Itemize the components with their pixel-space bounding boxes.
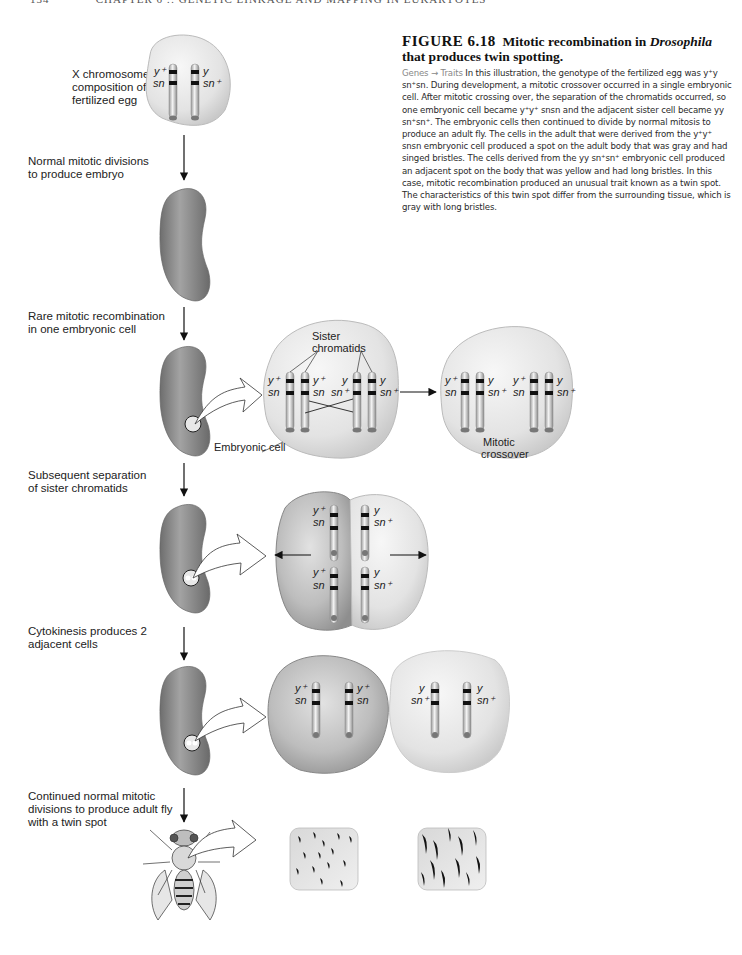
- svg-text:y⁺: y⁺: [512, 374, 526, 386]
- svg-text:sn: sn: [295, 694, 307, 706]
- chromatid: [461, 372, 470, 433]
- svg-text:sn: sn: [513, 386, 525, 398]
- svg-text:sn⁺: sn⁺: [557, 386, 576, 398]
- daughter-cell-gray: y⁺ sn y⁺ sn: [268, 656, 388, 774]
- svg-text:y⁺: y⁺: [312, 374, 326, 386]
- embryo-with-cell: [160, 346, 210, 456]
- svg-text:sn⁺: sn⁺: [477, 694, 496, 706]
- embryonic-cell-label: Embryonic cell: [214, 441, 286, 453]
- svg-text:sn: sn: [313, 579, 325, 591]
- embryo-with-cell: [160, 504, 210, 613]
- svg-text:sn⁺: sn⁺: [374, 579, 393, 591]
- svg-text:y⁺: y⁺: [294, 682, 308, 694]
- svg-text:y⁺: y⁺: [312, 504, 326, 516]
- svg-text:sn⁺: sn⁺: [331, 386, 350, 398]
- chromosome: [169, 64, 177, 121]
- svg-text:y⁺: y⁺: [444, 374, 458, 386]
- mitotic-recombination-diagram: y⁺ sn y sn⁺: [0, 0, 742, 955]
- sister-chromatids-label: Sister: [312, 330, 340, 342]
- chromatid: [545, 372, 554, 433]
- svg-text:sn⁺: sn⁺: [411, 694, 430, 706]
- svg-text:y⁺: y⁺: [356, 682, 370, 694]
- svg-text:sn: sn: [313, 516, 325, 528]
- svg-text:sn: sn: [313, 386, 325, 398]
- allele-label: y⁺: [153, 65, 167, 77]
- svg-text:sn⁺: sn⁺: [374, 516, 393, 528]
- svg-text:sn: sn: [445, 386, 457, 398]
- sister-chromatid: [353, 372, 362, 433]
- sister-chromatid: [301, 372, 310, 433]
- fertilized-egg-cell: y⁺ sn y sn⁺: [146, 35, 230, 125]
- mitotic-crossover-label: Mitotic: [483, 436, 515, 448]
- chromosome: [191, 64, 199, 121]
- svg-text:sn⁺: sn⁺: [380, 386, 399, 398]
- daughter-cell-light: y sn⁺ y sn⁺: [390, 651, 510, 773]
- svg-text:y⁺: y⁺: [267, 374, 281, 386]
- long-bristles-patch: [418, 828, 486, 890]
- svg-text:sn: sn: [357, 694, 369, 706]
- svg-text:sn⁺: sn⁺: [488, 386, 507, 398]
- chromatid: [476, 372, 485, 433]
- zoom-arrow: [195, 698, 266, 741]
- dividing-cell: y⁺ sn y sn⁺ y⁺ sn y sn⁺: [275, 492, 428, 630]
- chromatid: [530, 372, 539, 433]
- zoom-arrow: [193, 534, 266, 578]
- allele-label: sn: [153, 77, 165, 89]
- embryo: [160, 189, 210, 301]
- embryo-with-cell: [160, 666, 210, 775]
- singed-bristles-patch: [290, 828, 358, 890]
- svg-text:y⁺: y⁺: [312, 566, 326, 578]
- svg-text:sn: sn: [268, 386, 280, 398]
- mitotic-crossover-label: crossover: [481, 448, 529, 460]
- sister-chromatid: [368, 372, 377, 433]
- allele-label: sn⁺: [203, 77, 222, 89]
- sister-chromatids-label: chromatids: [312, 342, 366, 354]
- mitotic-crossover-cell: y⁺ sn y sn⁺ y⁺ sn y sn⁺ Mitotic crossove…: [441, 327, 576, 460]
- sister-chromatid: [286, 372, 295, 433]
